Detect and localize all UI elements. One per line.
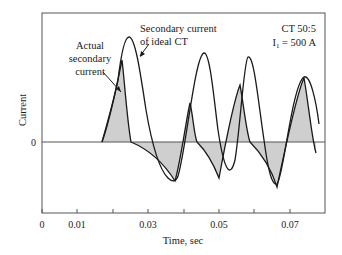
actual-label-line3: current (75, 66, 105, 77)
actual-label-line1: Actual (76, 40, 104, 51)
x-ticks (42, 209, 290, 213)
ideal-label-line2: of ideal CT (140, 36, 188, 47)
x-tick-0.05: 0.05 (210, 219, 228, 230)
chart: 0 0.01 0.03 0.05 0.07 0 Time, sec Curren… (0, 0, 342, 255)
y-axis-label: Current (17, 94, 28, 126)
x-tick-0.07: 0.07 (281, 219, 299, 230)
x-tick-0.01: 0.01 (68, 219, 86, 230)
x-tick-0.03: 0.03 (139, 219, 157, 230)
ct-ratio-label: CT 50:5 (281, 23, 316, 34)
x-tick-0: 0 (40, 219, 45, 230)
actual-label-line2: secondary (69, 53, 112, 64)
actual-secondary-current-line (102, 60, 316, 187)
primary-current-label: I1 = 500 A (272, 37, 316, 50)
ideal-label-line1: Secondary current (140, 23, 217, 34)
actual-secondary-current-fill (102, 60, 316, 187)
y-tick-0: 0 (31, 137, 36, 148)
x-axis-label: Time, sec (163, 235, 204, 246)
